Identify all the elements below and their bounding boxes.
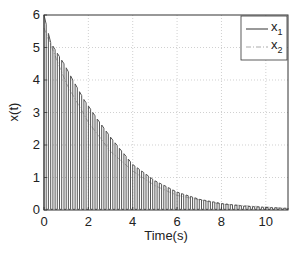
x-tick-label: 6 — [173, 214, 180, 229]
x-tick-label: 0 — [40, 214, 47, 229]
y-tick-label: 4 — [33, 72, 40, 87]
x-tick-label: 8 — [218, 214, 225, 229]
y-tick-label: 2 — [33, 137, 40, 152]
y-tick-label: 3 — [33, 105, 40, 120]
x-tick-label: 2 — [85, 214, 92, 229]
chart: 0246810 0123456 Time(s) x(t) x1 x2 — [0, 0, 302, 259]
y-tick-label: 6 — [33, 7, 40, 22]
y-tick-label: 5 — [33, 40, 40, 55]
x-axis-label: Time(s) — [144, 228, 188, 243]
y-axis-ticks: 0123456 — [33, 7, 47, 217]
x-tick-label: 4 — [129, 214, 136, 229]
y-tick-label: 1 — [33, 170, 40, 185]
x-tick-label: 10 — [259, 214, 273, 229]
y-axis-label: x(t) — [6, 103, 21, 122]
y-tick-label: 0 — [33, 202, 40, 217]
legend: x1 x2 — [241, 16, 287, 60]
